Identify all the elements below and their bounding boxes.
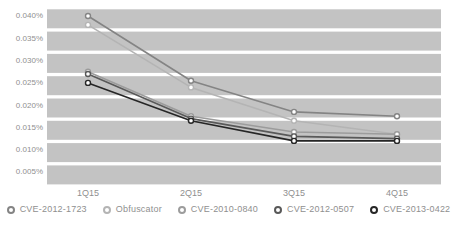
legend-marker-icon — [103, 206, 111, 214]
y-axis-tick-label: 0.020% — [16, 101, 43, 110]
legend-label: CVE-2010-0840 — [191, 205, 258, 214]
exploit-trend-chart: 0.040%0.035%0.030%0.025%0.020%0.015%0.01… — [0, 0, 457, 228]
legend-label: CVE-2012-1723 — [20, 205, 87, 214]
legend-item-cve-2010-0840: CVE-2010-0840 — [178, 205, 258, 214]
grid-band — [47, 9, 441, 28]
grid-band — [47, 54, 441, 73]
chart-plot-area: 0.040%0.035%0.030%0.025%0.020%0.015%0.01… — [0, 0, 457, 204]
x-axis-tick-label: 4Q15 — [386, 188, 408, 198]
y-axis-tick-label: 0.025% — [16, 78, 43, 87]
data-point-obfuscator — [292, 118, 297, 123]
grid-band — [47, 99, 441, 118]
data-point-cve-2012-0507 — [86, 72, 91, 77]
data-point-cve-2012-1723 — [292, 109, 297, 114]
x-axis-tick-label: 2Q15 — [180, 188, 202, 198]
y-axis-tick-label: 0.005% — [16, 167, 43, 176]
legend-item-cve-2013-0422: CVE-2013-0422 — [370, 205, 450, 214]
y-axis-tick-label: 0.035% — [16, 34, 43, 43]
data-point-cve-2012-1723 — [395, 114, 400, 119]
grid-band — [47, 165, 441, 184]
data-point-obfuscator — [86, 22, 91, 27]
data-point-cve-2013-0422 — [395, 138, 400, 143]
y-axis-tick-label: 0.040% — [16, 11, 43, 20]
data-point-obfuscator — [189, 85, 194, 90]
data-point-cve-2013-0422 — [189, 118, 194, 123]
legend-label: Obfuscator — [116, 205, 162, 214]
y-axis-tick-label: 0.030% — [16, 56, 43, 65]
grid-band — [47, 143, 441, 162]
legend-marker-icon — [7, 206, 15, 214]
y-axis-tick-label: 0.015% — [16, 123, 43, 132]
legend-item-cve-2012-1723: CVE-2012-1723 — [7, 205, 87, 214]
chart-legend: CVE-2012-1723ObfuscatorCVE-2010-0840CVE-… — [0, 205, 457, 214]
legend-label: CVE-2012-0507 — [287, 205, 354, 214]
data-point-cve-2013-0422 — [86, 80, 91, 85]
grid-band — [47, 32, 441, 51]
legend-marker-icon — [274, 206, 282, 214]
data-point-cve-2013-0422 — [292, 138, 297, 143]
legend-label: CVE-2013-0422 — [383, 205, 450, 214]
legend-item-obfuscator: Obfuscator — [103, 205, 162, 214]
data-point-cve-2012-1723 — [189, 78, 194, 83]
legend-marker-icon — [178, 206, 186, 214]
y-axis-tick-label: 0.010% — [16, 145, 43, 154]
legend-marker-icon — [370, 206, 378, 214]
data-point-cve-2012-1723 — [86, 14, 91, 19]
x-axis-tick-label: 1Q15 — [77, 188, 99, 198]
legend-item-cve-2012-0507: CVE-2012-0507 — [274, 205, 354, 214]
x-axis-tick-label: 3Q15 — [283, 188, 305, 198]
